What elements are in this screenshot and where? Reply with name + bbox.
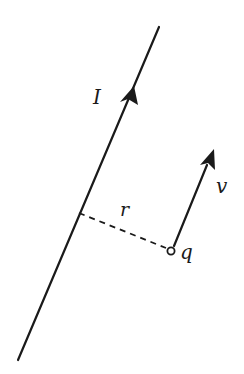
wire-charge-diagram: I r v q bbox=[0, 0, 244, 374]
current-wire bbox=[18, 27, 159, 360]
charge-label: q bbox=[180, 240, 193, 264]
current-label: I bbox=[92, 85, 102, 109]
velocity-arrow-icon bbox=[200, 149, 215, 170]
velocity-label: v bbox=[216, 174, 228, 198]
velocity-vector bbox=[174, 165, 207, 246]
distance-label: r bbox=[120, 198, 131, 220]
charge-point bbox=[167, 247, 174, 254]
current-arrow-icon bbox=[120, 86, 138, 105]
